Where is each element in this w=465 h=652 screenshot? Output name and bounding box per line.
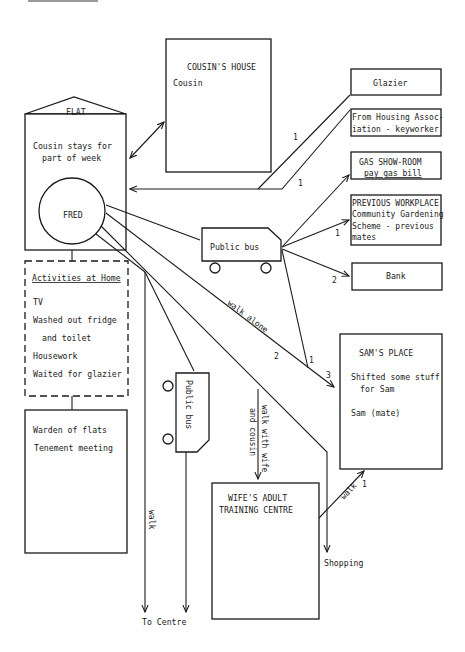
cousins-house-box [166,39,271,172]
cousins-house-body: Cousin [173,78,203,88]
wifes-centre-box [212,483,319,619]
fred-to-vertical-bus-line [145,272,194,371]
flat-note-line2: part of week [42,153,101,163]
warden-node: Warden of flats Tenement meeting [25,410,127,553]
walk-with-wife-line1: walk with wife [260,405,269,473]
bank-count: 2 [332,276,337,285]
fred-label: FRED [63,210,83,220]
centre-to-sams-label: walk [339,481,359,501]
gas-showroom-line2: pay gas bill [364,169,422,178]
workplace-count: 1 [335,229,340,238]
activities-title: Activities at Home [32,273,121,283]
activity-item-0: TV [33,297,43,307]
sams-place-line3: Sam (mate) [351,408,400,418]
previous-workplace-node: PREVIOUS WORKPLACE Community Gardening S… [351,195,444,245]
housing-association-node: From Housing Assoc- iation - keyworker [351,109,444,136]
walk-to-centre-label: walk [147,510,156,529]
walk-alone-label: walk alone [226,298,270,334]
activity-network-diagram: FLAT Cousin stays for part of week FRED … [0,0,465,652]
walk-alone-count: 2 [274,352,279,361]
glazier-label: Glazier [373,78,408,88]
bus-to-sams-count: 1 [309,356,314,365]
activity-item-2: and toilet [42,333,91,343]
bank-node: Bank [352,263,442,290]
public-bus-horizontal: Public bus [202,228,281,273]
public-bus-vertical: Public bus [163,373,209,452]
vertical-bus-label: Public bus [184,380,194,429]
warden-line1: Warden of flats [33,425,107,435]
sams-place-node: SAM'S PLACE Shifted some stuff for Sam S… [340,334,442,469]
activity-item-1: Washed out fridge [33,315,117,325]
cousins-house-title: COUSIN'S HOUSE [187,62,256,72]
activity-item-4: Waited for glazier [33,369,122,379]
vertical-bus-wheel-top [163,381,173,391]
flat-node: FLAT Cousin stays for part of week FRED [25,97,126,250]
previous-workplace-line2: Community Gardening [352,210,444,219]
centre-to-sams-count: 1 [362,480,367,489]
glazier-node: Glazier [351,69,441,95]
sams-place-line2: for Sam [360,384,395,394]
previous-workplace-line4: mates [352,233,376,242]
glazier-count: 1 [293,133,298,142]
shopping-label: Shopping [324,558,364,568]
flat-note-line1: Cousin stays for [33,141,112,151]
sams-place-line1: Shifted some stuff [351,372,440,382]
housing-association-line2: iation - keyworker [352,125,439,134]
flat-cousin-double-arrow [130,122,164,158]
bus-wheel-rear [261,263,271,273]
previous-workplace-line1: PREVIOUS WORKPLACE [352,199,439,208]
bank-label: Bank [386,271,406,281]
sams-place-title: SAM'S PLACE [359,348,413,358]
activities-at-home-node: Activities at Home TV Washed out fridge … [25,261,128,396]
sams-arrow-count: 3 [326,371,331,380]
cousins-house-node: COUSIN'S HOUSE Cousin [166,39,271,172]
housing-count: 1 [298,179,303,188]
flat-roof-label: FLAT [66,107,86,117]
glazier-line [258,95,350,189]
wifes-centre-line1: WIFE'S ADULT [228,493,287,503]
walk-with-wife-line2: and cousin [248,408,257,456]
gas-showroom-line1: GAS SHOW-ROOM [359,158,422,167]
wifes-centre-node: WIFE'S ADULT TRAINING CENTRE [212,483,319,619]
bus-label: Public bus [210,242,259,252]
bus-to-bank-arrow [282,249,349,276]
previous-workplace-line3: Scheme - previous [352,222,434,231]
bus-wheel-front [210,263,220,273]
to-centre-label: To Centre [142,617,186,627]
activity-item-3: Housework [33,351,77,361]
housing-association-line1: From Housing Assoc- [352,113,444,122]
vertical-bus-wheel-bottom [163,434,173,444]
wifes-centre-line2: TRAINING CENTRE [219,505,293,515]
warden-line2: Tenement meeting [34,443,113,453]
gas-showroom-node: GAS SHOW-ROOM pay gas bill [351,152,441,179]
